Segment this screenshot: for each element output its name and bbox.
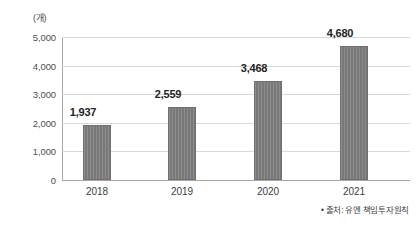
y-tick-label-5000: 5,000: [10, 32, 56, 43]
y-tick-label-4000: 4,000: [10, 60, 56, 71]
bar-2018[interactable]: [83, 125, 111, 180]
y-axis-unit-label: (개): [33, 11, 46, 24]
y-tick-label-0: 0: [10, 175, 56, 186]
y-tick-label-2000: 2,000: [10, 117, 56, 128]
bar-value-2021: 4,680: [305, 27, 375, 39]
x-label-2018: 2018: [57, 186, 137, 197]
bar-value-2019: 2,559: [133, 88, 203, 100]
bar-2021[interactable]: [340, 46, 368, 180]
source-note: • 출처: 유엔 책임투자원칙: [321, 203, 409, 215]
bar-2020[interactable]: [254, 81, 282, 180]
bar-value-2018: 1,937: [48, 106, 118, 118]
bar-value-2020: 3,468: [219, 62, 289, 74]
x-label-2020: 2020: [228, 186, 308, 197]
bar-2019[interactable]: [168, 107, 196, 180]
bar-chart-figure: (개) 5,000 4,000 3,000 2,000 1,000 0 1,93…: [0, 0, 417, 227]
x-label-2019: 2019: [142, 186, 222, 197]
y-tick-label-3000: 3,000: [10, 89, 56, 100]
gridline-baseline-0: [62, 180, 410, 181]
y-tick-label-1000: 1,000: [10, 146, 56, 157]
x-label-2021: 2021: [314, 186, 394, 197]
